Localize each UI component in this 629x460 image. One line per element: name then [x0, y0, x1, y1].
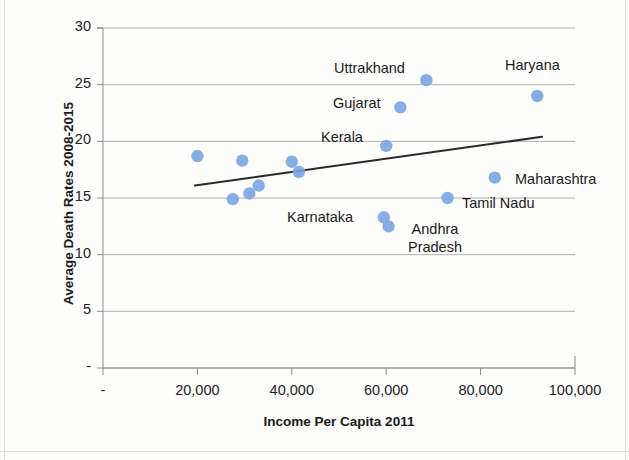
- x-tick-label: 40,000: [247, 382, 337, 398]
- x-tick-label: 60,000: [341, 382, 431, 398]
- data-point: [243, 187, 255, 199]
- data-point: [420, 74, 432, 86]
- point-label-maharashtra: Maharashtra: [515, 171, 596, 187]
- data-point: [531, 90, 543, 102]
- data-point: [293, 166, 305, 178]
- point-label-uttrakhand: Uttrakhand: [334, 60, 405, 76]
- data-point: [286, 156, 298, 168]
- y-tick-label: 30: [55, 18, 91, 34]
- data-point: [441, 192, 453, 204]
- data-point: [380, 140, 392, 152]
- x-tick-label: -: [58, 382, 148, 398]
- y-tick-label: 5: [55, 301, 91, 317]
- data-point: [382, 220, 394, 232]
- y-tick-label: -: [55, 358, 91, 374]
- point-label-haryana: Haryana: [505, 57, 560, 73]
- data-point: [191, 150, 203, 162]
- data-point: [227, 193, 239, 205]
- y-tick-label: 15: [55, 188, 91, 204]
- x-tick-label: 100,000: [530, 382, 620, 398]
- point-label-kerala: Kerala: [321, 129, 363, 145]
- y-tick-label: 20: [55, 131, 91, 147]
- data-point: [236, 154, 248, 166]
- data-point: [489, 171, 501, 183]
- x-tick-label: 80,000: [436, 382, 526, 398]
- data-point: [253, 179, 265, 191]
- x-axis-title: Income Per Capita 2011: [103, 414, 575, 429]
- x-tick-label: 20,000: [152, 382, 242, 398]
- point-label-gujarat: Gujarat: [333, 95, 381, 111]
- point-label-karnataka: Karnataka: [287, 209, 353, 225]
- point-label-andhra-pradesh: Andhra Pradesh: [398, 221, 472, 256]
- y-tick-label: 25: [55, 75, 91, 91]
- point-label-tamil-nadu: Tamil Nadu: [462, 195, 535, 211]
- data-point: [394, 101, 406, 113]
- scatter-chart-figure: Average Death Rates 2008-2015 Income Per…: [0, 0, 629, 460]
- y-tick-label: 10: [55, 245, 91, 261]
